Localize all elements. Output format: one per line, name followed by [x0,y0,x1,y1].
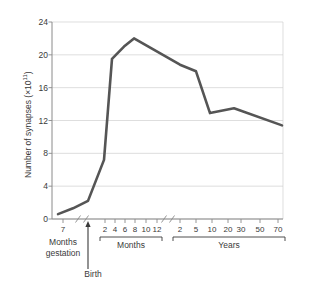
x-tick-label: 12 [153,225,162,234]
y-tick-label: 4 [28,181,48,191]
x-tick-label: 2 [178,225,182,234]
synapse-count-line [58,38,282,214]
group-label-years: Years [218,240,239,250]
x-tick-label: 5 [194,225,198,234]
birth-label: Birth [84,269,101,280]
x-tick-label: 2 [103,225,107,234]
y-tick-label: 16 [28,83,48,93]
y-tick-label: 24 [28,17,48,27]
x-tick-label: 10 [142,225,151,234]
y-tick-label: 0 [28,214,48,224]
x-tick-label: 6 [123,225,127,234]
y-tick-label: 12 [28,116,48,126]
x-tick-label: 10 [208,225,217,234]
y-tick-label: 8 [28,148,48,158]
x-tick-label: 4 [113,225,117,234]
y-tick-label: 20 [28,50,48,60]
gridlines [49,22,284,219]
x-tick-label: 8 [133,225,137,234]
gestation-label-line2: gestation [46,248,81,259]
group-label-months-gestation: Monthsgestation [46,237,81,258]
gestation-label-line1: Months [46,237,81,248]
x-tick-label: 20 [224,225,233,234]
group-label-months: Months [117,240,145,250]
x-tick-label: 50 [256,225,265,234]
birth-arrow [85,221,90,269]
x-tick-label: 30 [237,225,246,234]
x-tick-label: 70 [274,225,283,234]
x-tick-label: 7 [61,225,65,234]
